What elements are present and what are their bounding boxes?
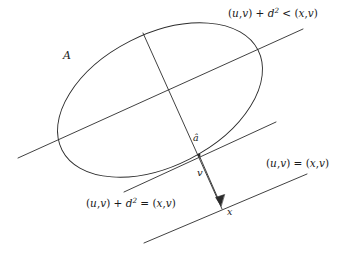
label-point-ahat: â (193, 133, 199, 143)
convex-set-ellipse (32, 0, 288, 209)
tangency-point-ahat-dot (198, 154, 201, 157)
label-parallel-hyperplane-equation: (u,v) = (x,v) (266, 158, 329, 169)
diagram-canvas: (u,v) + d2 < (x,v) (u,v) + d2 = (x,v) (u… (0, 0, 359, 260)
label-point-x: x (227, 207, 232, 217)
vector-v-arrow-shaft (199, 155, 220, 203)
normal-direction-line (143, 33, 222, 209)
hyperplane-strict-inequality-line (18, 29, 303, 158)
label-supporting-hyperplane-equation: (u,v) + d2 = (x,v) (86, 198, 176, 209)
label-vector-v: v (197, 168, 203, 178)
label-strict-inequality: (u,v) + d2 < (x,v) (228, 8, 318, 19)
label-set-a: A (63, 50, 71, 61)
figure-svg (0, 0, 359, 260)
